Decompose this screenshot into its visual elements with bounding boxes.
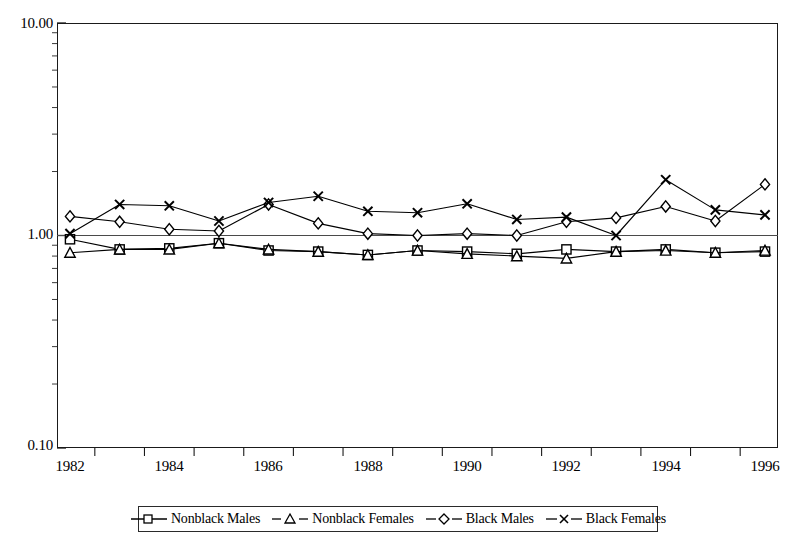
x-axis-label-1984: 1984 [139,458,199,474]
x-axis-label-1986: 1986 [238,458,298,474]
x-axis-label-1994: 1994 [636,458,696,474]
x-axis-labels: 1982 1984 1986 1988 1990 1992 1994 1996 [0,458,788,482]
x-axis-label-1982: 1982 [40,458,100,474]
triangle-marker-icon [271,512,309,526]
legend-item-nonblack-males: Nonblack Males [130,512,260,526]
y-axis-label-2: 0.10 [1,438,53,453]
x-axis-label-1990: 1990 [437,458,497,474]
x-axis-label-1996: 1996 [735,458,788,474]
legend-label-nonblack-females: Nonblack Females [312,512,413,526]
legend-item-black-females: Black Females [545,512,666,526]
legend-item-nonblack-females: Nonblack Females [271,512,413,526]
x-axis-ticks [95,448,740,456]
legend-label-black-females: Black Females [586,512,666,526]
y-axis-label-0: 10.00 [1,16,53,31]
plot-area [57,23,778,448]
legend-item-black-males: Black Males [425,512,534,526]
chart-legend: Nonblack Males Nonblack Females Blac [138,506,658,532]
diamond-marker-icon [425,512,463,526]
y-axis-label-1: 1.00 [1,227,53,242]
x-axis-label-1992: 1992 [536,458,596,474]
legend-label-nonblack-males: Nonblack Males [171,512,260,526]
x-axis-label-1988: 1988 [338,458,398,474]
square-marker-icon [130,512,168,526]
legend-label-black-males: Black Males [466,512,534,526]
chart-root: 10.00 1.00 0.10 1982 1984 1986 1988 1990… [0,0,788,538]
x-marker-icon [545,512,583,526]
